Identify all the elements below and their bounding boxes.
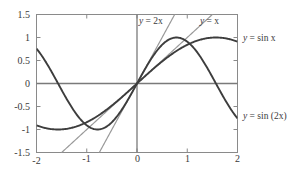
x-tick-label-1: 1 [177, 154, 198, 164]
annotation-y-x-rest: = x [204, 16, 219, 26]
annotation-y-2x-rest: = 2x [143, 16, 163, 26]
x-tick-label-neg1: -1 [76, 154, 97, 164]
annotation-y-x: y = x [200, 17, 219, 27]
y-tick-label-0.5: 0.5 [2, 56, 30, 66]
annotation-y-sin-x-rest: = sin x [247, 33, 275, 43]
annotation-y-2x: y = 2x [139, 17, 163, 27]
y-tick-label-neg1: -1 [0, 125, 30, 135]
y-tick-label-1: 1 [2, 33, 30, 43]
sine-comparison-chart: 1.5 1 0.5 0 -0.5 -1 -1.5 -2 -1 0 1 2 y =… [0, 0, 304, 175]
annotation-y-sin-2x-rest: = sin (2x) [247, 111, 286, 121]
y-tick-label-1.5: 1.5 [2, 10, 30, 20]
x-tick-label-neg2: -2 [26, 156, 47, 166]
annotation-y-sin-x: y = sin x [243, 34, 276, 44]
x-tick-label-0: 0 [127, 154, 148, 164]
y-tick-label-neg0.5: -0.5 [0, 102, 30, 112]
x-tick-label-2: 2 [227, 154, 248, 164]
y-tick-label-0: 0 [2, 79, 30, 89]
annotation-y-sin-2x: y = sin (2x) [243, 112, 287, 122]
